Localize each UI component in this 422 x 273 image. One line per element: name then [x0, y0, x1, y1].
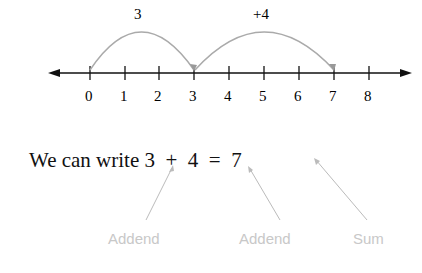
addend-label-1: Addend	[108, 230, 160, 247]
tick-label: 4	[224, 88, 232, 105]
addend-1: 3	[145, 148, 156, 172]
tick-label: 3	[189, 88, 197, 105]
right-arrow-icon	[400, 69, 412, 77]
addend2-pointer	[250, 169, 280, 220]
sentence-prefix: We can write	[29, 148, 139, 172]
equals-sign: =	[209, 148, 221, 172]
sum-label: Sum	[353, 230, 384, 247]
tick-label: 2	[154, 88, 162, 105]
tick-label: 1	[120, 88, 128, 105]
plus-sign: +	[166, 148, 178, 172]
tick-label: 0	[85, 88, 93, 105]
tick-label: 8	[364, 88, 372, 105]
addend-label-2: Addend	[239, 230, 291, 247]
sum-value: 7	[231, 148, 242, 172]
tick-label: 6	[294, 88, 302, 105]
jump-label-plus-4: +4	[253, 6, 269, 23]
tick-label: 5	[259, 88, 267, 105]
arc-arrowhead-icon	[329, 64, 336, 71]
sum-pointer	[316, 160, 367, 220]
jump-label-3: 3	[134, 6, 142, 23]
jump-arc-plus-4	[195, 32, 334, 70]
left-arrow-icon	[48, 69, 60, 77]
equation-sentence: We can write 3 + 4 = 7	[29, 148, 242, 173]
addend-2: 4	[188, 148, 199, 172]
tick-label: 7	[329, 88, 337, 105]
addition-number-line-diagram: 3 +4 0 1 2 3 4 5 6 7 8 We can write 3 + …	[0, 0, 422, 273]
jump-arc-3	[90, 32, 194, 70]
addend1-pointer	[146, 168, 172, 220]
